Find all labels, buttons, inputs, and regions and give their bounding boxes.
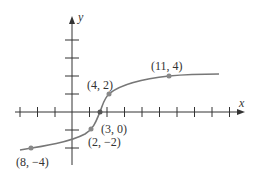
point-label: (11, 4) <box>151 59 183 73</box>
point-label: (8, −4) <box>16 155 49 169</box>
point-marker <box>29 146 34 151</box>
point-marker <box>89 127 94 132</box>
point-marker <box>107 92 112 97</box>
point-label: (3, 0) <box>101 122 127 136</box>
point-marker <box>98 110 103 115</box>
point-marker <box>167 74 172 79</box>
x-axis-label: x <box>238 96 245 110</box>
y-axis-arrow-icon <box>69 16 75 24</box>
y-axis-label: y <box>77 10 84 24</box>
chart: y x (8, −4) (2, −2) (3, 0) (4, 2) (11, 4… <box>0 0 255 174</box>
point-label: (2, −2) <box>88 135 121 149</box>
point-label: (4, 2) <box>87 78 113 92</box>
